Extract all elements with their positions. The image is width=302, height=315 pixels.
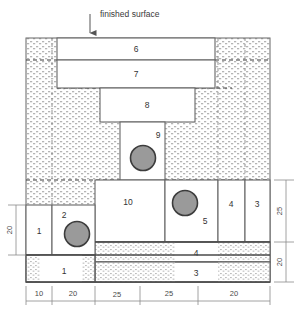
block-9: 9	[120, 122, 165, 180]
finished-surface-label: finished surface	[100, 9, 160, 19]
block-1-left: 1	[26, 205, 52, 255]
right-dim-2: 20	[275, 258, 284, 266]
block-4-right: 4	[218, 180, 245, 242]
bottom-dim-4: 25	[165, 289, 173, 298]
left-dimension: 20	[5, 205, 26, 255]
bottom-dimension-chain: 10 20 25 25 20	[26, 286, 270, 305]
block-1-bottom-label: 1	[62, 266, 67, 276]
cross-section-drawing: 6 7 8 9 10 5 4 3 4	[0, 0, 302, 315]
left-dim-1: 20	[5, 226, 14, 234]
block-9-circle	[131, 146, 156, 171]
block-4-right-label: 4	[229, 199, 234, 209]
block-10-label: 10	[123, 197, 133, 207]
bottom-dim-5: 20	[230, 289, 238, 298]
block-8: 8	[100, 88, 195, 122]
finished-surface-annotation: finished surface	[90, 9, 160, 33]
block-2-circle	[65, 222, 90, 247]
block-7: 7	[57, 60, 215, 88]
block-4-middle: 4	[95, 242, 270, 262]
block-5: 5	[165, 180, 218, 242]
block-7-label: 7	[134, 69, 139, 79]
right-dimension-chain: 25 20	[274, 180, 294, 282]
right-dim-1: 25	[275, 207, 284, 215]
bottom-dim-3: 25	[113, 290, 121, 299]
block-6: 6	[57, 38, 215, 60]
block-4-middle-label: 4	[194, 248, 199, 258]
block-8-label: 8	[145, 100, 150, 110]
bottom-dim-2: 20	[69, 289, 77, 298]
block-3-right: 3	[245, 180, 270, 242]
bottom-dim-1: 10	[35, 289, 43, 298]
block-3-middle: 3	[95, 262, 270, 282]
block-5-label: 5	[203, 216, 208, 226]
block-3-middle-label: 3	[194, 268, 199, 278]
block-6-label: 6	[134, 44, 139, 54]
diagram-canvas: 6 7 8 9 10 5 4 3 4	[0, 0, 302, 315]
block-5-circle	[173, 191, 198, 216]
block-3-right-label: 3	[255, 199, 260, 209]
block-10: 10	[95, 180, 165, 242]
block-1-left-label: 1	[37, 226, 42, 236]
block-1-bottom: 1	[26, 255, 95, 282]
block-2-label: 2	[62, 210, 67, 220]
block-9-label: 9	[156, 130, 161, 140]
block-2: 2	[52, 205, 95, 255]
